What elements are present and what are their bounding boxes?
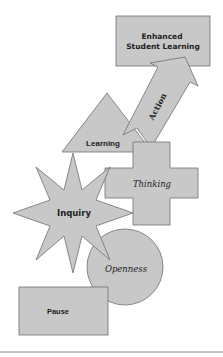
thinking-label: Thinking xyxy=(133,179,172,189)
learning-label: Learning xyxy=(86,139,120,148)
enhanced-label-line1: Enhanced xyxy=(141,32,182,41)
diagram-canvas: Enhanced Student Learning Learning Actio… xyxy=(0,0,223,357)
openness-label: Openness xyxy=(105,264,148,274)
enhanced-student-learning-node: Enhanced Student Learning xyxy=(116,16,210,66)
enhanced-label-line2: Student Learning xyxy=(126,42,200,51)
pause-label: Pause xyxy=(47,307,69,316)
pause-node: Pause xyxy=(19,287,108,335)
inquiry-label: Inquiry xyxy=(57,208,91,218)
enhanced-box xyxy=(116,16,210,66)
